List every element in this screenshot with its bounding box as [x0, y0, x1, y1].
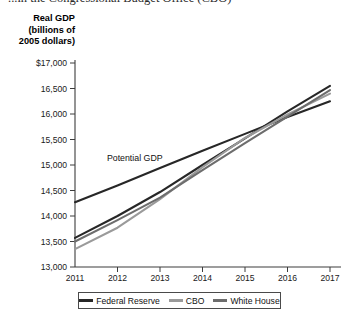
y-tick-label: 14,500	[41, 186, 68, 196]
line-chart: $17,00016,50016,00015,50015,00014,50014,…	[0, 0, 353, 319]
x-tick-label: 2012	[108, 273, 127, 283]
legend-label: Federal Reserve	[96, 296, 160, 306]
x-tick-label: 2017	[320, 273, 339, 283]
x-tick-label: 2013	[150, 273, 169, 283]
y-tick-label: 15,500	[41, 135, 68, 145]
chart-legend: Federal ReserveCBOWhite House	[78, 292, 281, 309]
x-tick-label: 2014	[193, 273, 212, 283]
y-tick-label: 13,500	[41, 237, 68, 247]
legend-item-federal-reserve[interactable]: Federal Reserve	[79, 296, 160, 306]
legend-item-white-house[interactable]: White House	[213, 296, 279, 306]
y-tick-label: 16,500	[41, 84, 68, 94]
y-tick-label: 14,000	[41, 211, 68, 221]
x-axis-ticks: 2011201220132014201520162017	[66, 267, 340, 283]
data-series-group	[75, 86, 330, 249]
y-tick-label: 15,000	[41, 160, 68, 170]
legend-swatch-icon	[169, 299, 183, 302]
series-line-potential-gdp	[75, 101, 330, 202]
y-tick-label: $17,000	[36, 58, 67, 68]
legend-label: White House	[230, 296, 279, 306]
x-tick-label: 2016	[278, 273, 297, 283]
legend-swatch-icon	[79, 299, 93, 302]
y-tick-label: 16,000	[41, 109, 68, 119]
y-axis-ticks: $17,00016,50016,00015,50015,00014,50014,…	[36, 58, 75, 272]
x-tick-label: 2011	[66, 273, 85, 283]
legend-item-cbo[interactable]: CBO	[169, 296, 205, 306]
series-line-cbo	[75, 94, 330, 250]
annotation-potential-gdp: Potential GDP	[107, 153, 163, 163]
chart-plot-area: $17,00016,50016,00015,50015,00014,50014,…	[0, 0, 353, 319]
y-tick-label: 13,000	[41, 262, 68, 272]
x-tick-label: 2015	[235, 273, 254, 283]
chart-annotations: Potential GDP	[107, 153, 163, 163]
legend-swatch-icon	[213, 299, 227, 302]
legend-label: CBO	[186, 296, 205, 306]
